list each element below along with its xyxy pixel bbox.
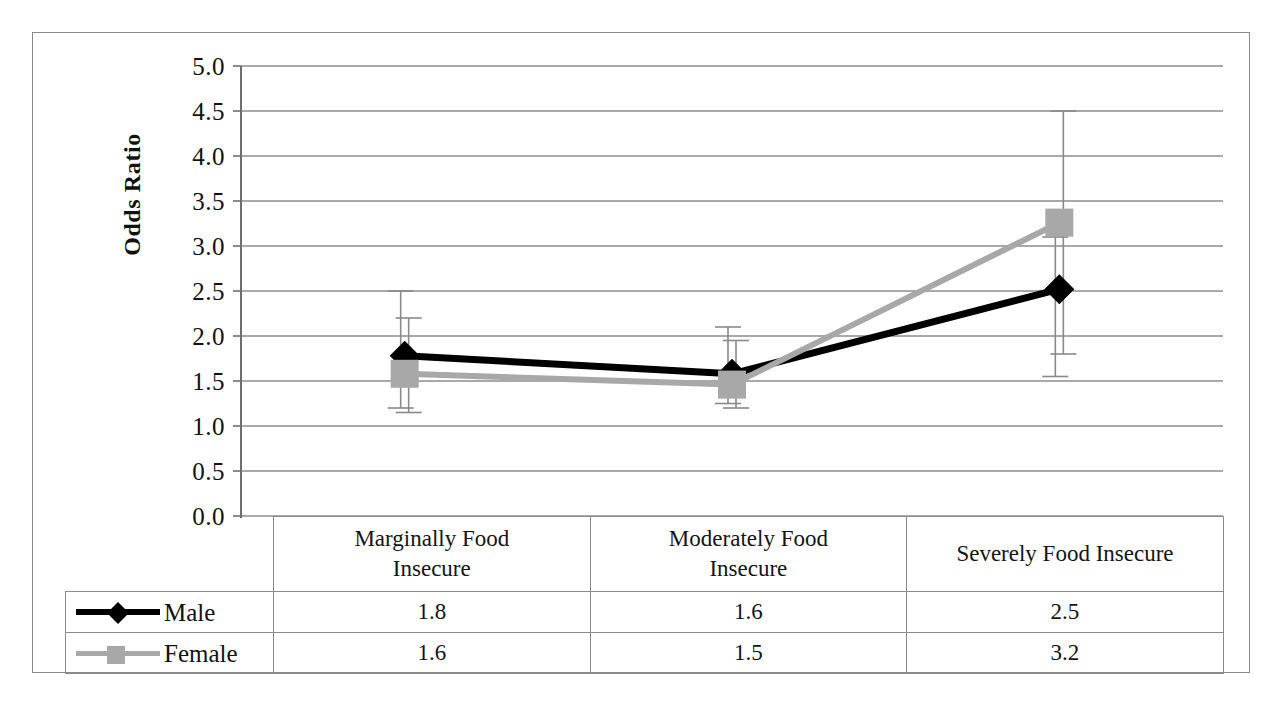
- table-header-row: Marginally Food Insecure Moderately Food…: [66, 517, 1224, 592]
- table-row: Male 1.8 1.6 2.5: [66, 592, 1224, 633]
- table-cell-male-marginal: 1.8: [274, 592, 591, 633]
- legend-label-male: Male: [164, 600, 215, 625]
- category-label-line1: Marginally Food: [354, 526, 509, 551]
- table-cell-female-marginal: 1.6: [274, 633, 591, 674]
- table-cell-male-severe: 2.5: [907, 592, 1224, 633]
- table-cell-male-moderate: 1.6: [590, 592, 907, 633]
- category-label-line2: Insecure: [393, 556, 471, 581]
- table-cell-female-moderate: 1.5: [590, 633, 907, 674]
- table-column-header: Severely Food Insecure: [907, 517, 1224, 592]
- table-column-header: Marginally Food Insecure: [274, 517, 591, 592]
- legend-entry-male[interactable]: Male: [66, 592, 274, 633]
- category-label-line1: Moderately Food: [669, 526, 828, 551]
- y-axis-ticks: [233, 66, 241, 516]
- diamond-marker-icon: [105, 600, 131, 632]
- table-row: Female 1.6 1.5 3.2: [66, 633, 1224, 674]
- category-label-line2: Insecure: [709, 556, 787, 581]
- legend-entry-female[interactable]: Female: [66, 633, 274, 674]
- category-label-line1: Severely Food Insecure: [956, 541, 1173, 566]
- data-table: Marginally Food Insecure Moderately Food…: [65, 516, 1224, 674]
- male-marker-swatch: [76, 601, 160, 623]
- table-corner-blank: [66, 517, 274, 592]
- figure-frame: Odds Ratio 5.0 4.5 4.0 3.5 3.0 2.5 2.0 1…: [32, 32, 1250, 673]
- legend-label-female: Female: [164, 641, 238, 666]
- data-series: [390, 209, 1075, 399]
- female-marker-swatch: [76, 642, 160, 664]
- table-column-header: Moderately Food Insecure: [590, 517, 907, 592]
- square-marker-icon: [104, 643, 128, 673]
- table-cell-female-severe: 3.2: [907, 633, 1224, 674]
